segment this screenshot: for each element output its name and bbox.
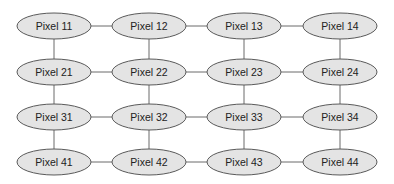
- node-label: Pixel 22: [130, 66, 168, 78]
- pixel-node: Pixel 14: [303, 13, 377, 39]
- pixel-node: Pixel 42: [112, 149, 186, 175]
- pixel-node: Pixel 24: [303, 59, 377, 85]
- node-label: Pixel 42: [130, 156, 168, 168]
- node-label: Pixel 21: [35, 66, 73, 78]
- pixel-node: Pixel 31: [17, 104, 91, 130]
- node-label: Pixel 31: [35, 111, 73, 123]
- node-label: Pixel 44: [321, 156, 359, 168]
- pixel-node: Pixel 41: [17, 149, 91, 175]
- node-label: Pixel 23: [225, 66, 263, 78]
- pixel-node: Pixel 12: [112, 13, 186, 39]
- pixel-node: Pixel 43: [207, 149, 281, 175]
- pixel-node: Pixel 23: [207, 59, 281, 85]
- node-label: Pixel 24: [321, 66, 359, 78]
- pixel-node: Pixel 34: [303, 104, 377, 130]
- node-label: Pixel 11: [36, 20, 73, 32]
- node-label: Pixel 12: [130, 20, 168, 32]
- pixel-node: Pixel 13: [207, 13, 281, 39]
- pixel-node: Pixel 11: [17, 13, 91, 39]
- edges: [54, 26, 340, 162]
- nodes: Pixel 11Pixel 12Pixel 13Pixel 14Pixel 21…: [17, 13, 377, 175]
- pixel-node: Pixel 33: [207, 104, 281, 130]
- node-label: Pixel 41: [35, 156, 73, 168]
- pixel-node: Pixel 22: [112, 59, 186, 85]
- node-label: Pixel 14: [321, 20, 359, 32]
- node-label: Pixel 32: [130, 111, 168, 123]
- pixel-node: Pixel 21: [17, 59, 91, 85]
- pixel-node: Pixel 32: [112, 104, 186, 130]
- node-label: Pixel 33: [225, 111, 263, 123]
- pixel-grid-diagram: Pixel 11Pixel 12Pixel 13Pixel 14Pixel 21…: [0, 0, 394, 184]
- node-label: Pixel 43: [225, 156, 263, 168]
- node-label: Pixel 34: [321, 111, 359, 123]
- node-label: Pixel 13: [225, 20, 263, 32]
- pixel-node: Pixel 44: [303, 149, 377, 175]
